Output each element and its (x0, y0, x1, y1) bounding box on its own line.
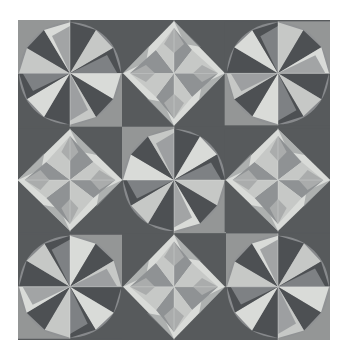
quilt-tile: middle-right-diamond (225, 128, 330, 232)
quilt-tile: bottom-left-pinwheel (18, 235, 123, 339)
circular-eight-point-pinwheel-icon (225, 21, 330, 125)
quilt-tile: middle-left-diamond (18, 128, 123, 232)
quilt-pattern-svg: top-left-pinwheeltop-center-diamondtop-r… (18, 20, 330, 340)
diamond-on-point-star-icon (18, 128, 123, 232)
quilt-pattern-area: top-left-pinwheeltop-center-diamondtop-r… (18, 20, 330, 340)
diamond-on-point-star-icon (122, 233, 226, 340)
quilt-tile: bottom-center-diamond (122, 233, 226, 340)
diamond-on-point-star-icon (225, 128, 330, 232)
circular-eight-point-pinwheel-icon (122, 127, 226, 234)
circular-eight-point-pinwheel-icon (18, 20, 122, 127)
circular-eight-point-pinwheel-icon (18, 235, 123, 339)
quilt-tile: bottom-right-pinwheel (226, 233, 330, 340)
artwork-canvas: top-left-pinwheeltop-center-diamondtop-r… (0, 0, 348, 360)
circular-eight-point-pinwheel-icon (226, 233, 330, 340)
quilt-tile: top-center-diamond (122, 20, 226, 127)
quilt-tile: top-right-pinwheel (225, 21, 330, 125)
diamond-on-point-star-icon (122, 20, 226, 127)
quilt-tile: top-left-pinwheel (18, 20, 122, 127)
tile-layer: top-left-pinwheeltop-center-diamondtop-r… (18, 20, 330, 340)
quilt-tile: center-pinwheel (122, 127, 226, 234)
